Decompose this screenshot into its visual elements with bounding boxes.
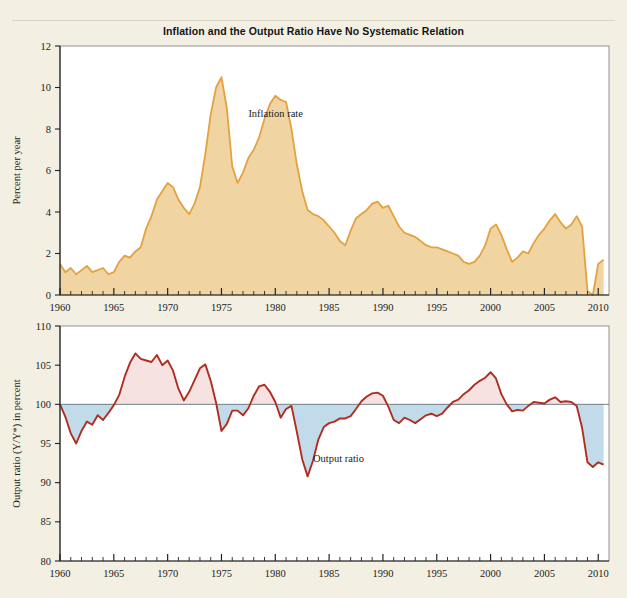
x-tick-label: 2010 — [588, 302, 609, 313]
x-tick-label: 1975 — [211, 568, 232, 579]
x-tick-label: 1990 — [372, 568, 393, 579]
x-tick-label: 1960 — [50, 568, 71, 579]
x-tick-label: 1975 — [211, 302, 232, 313]
x-tick-label: 1980 — [265, 302, 286, 313]
y-tick-label: 85 — [41, 516, 52, 527]
figure-page: Inflation and the Output Ratio Have No S… — [0, 0, 627, 598]
y-tick-label: 105 — [35, 360, 51, 371]
chart-canvas: 0246810121960196519701975198019851990199… — [0, 0, 627, 598]
y-tick-label: 12 — [41, 41, 52, 52]
x-tick-label: 2000 — [480, 568, 501, 579]
x-tick-label: 2000 — [480, 302, 501, 313]
x-tick-label: 1965 — [103, 302, 124, 313]
x-tick-label: 1980 — [265, 568, 286, 579]
y-tick-label: 110 — [36, 321, 51, 332]
x-tick-label: 1995 — [426, 302, 447, 313]
y-axis-title: Output ratio (Y/Y*) in percent — [11, 379, 23, 507]
x-tick-label: 1960 — [50, 302, 71, 313]
x-tick-label: 2005 — [534, 568, 555, 579]
x-tick-label: 1965 — [103, 568, 124, 579]
x-tick-label: 1985 — [319, 302, 340, 313]
x-tick-label: 2005 — [534, 302, 555, 313]
y-tick-label: 8 — [46, 124, 51, 135]
y-tick-label: 4 — [46, 207, 52, 218]
x-tick-label: 1970 — [157, 302, 178, 313]
y-tick-label: 10 — [41, 82, 52, 93]
series-annotation-label: Output ratio — [313, 453, 364, 464]
y-tick-label: 100 — [35, 399, 51, 410]
y-tick-label: 90 — [41, 477, 52, 488]
y-tick-label: 6 — [46, 165, 51, 176]
inflation-panel: 0246810121960196519701975198019851990199… — [11, 41, 609, 313]
x-tick-label: 1995 — [426, 568, 447, 579]
x-tick-label: 1990 — [372, 302, 393, 313]
series-annotation-label: Inflation rate — [248, 108, 303, 119]
y-tick-label: 0 — [46, 290, 51, 301]
output-ratio-panel: 8085909510010511019601965197019751980198… — [11, 321, 609, 579]
y-tick-label: 95 — [41, 438, 52, 449]
y-tick-label: 80 — [41, 556, 52, 567]
x-tick-label: 2010 — [588, 568, 609, 579]
y-axis-title: Percent per year — [11, 136, 22, 205]
x-tick-label: 1985 — [319, 568, 340, 579]
y-tick-label: 2 — [46, 248, 51, 259]
x-tick-label: 1970 — [157, 568, 178, 579]
